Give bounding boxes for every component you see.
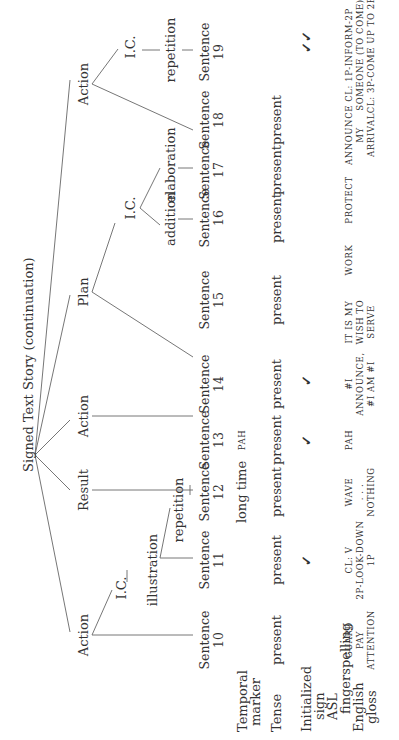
initialized-check-14: ✓	[300, 375, 314, 386]
tense-13: present	[270, 415, 284, 465]
node-ic-plan: I.C.	[124, 197, 138, 220]
node-repetition-right: repetition	[164, 18, 178, 83]
node-action-mid: Action	[77, 395, 91, 437]
sentence-12: Sentence12	[198, 463, 226, 522]
node-action-left: Action	[77, 614, 91, 656]
node-result: Result	[77, 469, 91, 511]
gloss-10: GUARDPAYATTENTION	[344, 610, 377, 670]
sentence-15: Sentence15	[198, 271, 226, 330]
node-action-right: Action	[77, 63, 91, 105]
tense-12: present	[270, 467, 284, 517]
tense-14: present	[270, 359, 284, 409]
sentence-11: Sentence11	[198, 531, 226, 590]
gloss-15: IT IS MYWISH TOSERVE	[344, 300, 377, 345]
node-plan: Plan	[77, 277, 91, 306]
node-elaboration: elaboration	[164, 127, 178, 202]
tense-16: present	[270, 193, 284, 243]
sentence-10: Sentence10	[198, 611, 226, 670]
temporal-13: PAH	[237, 430, 248, 450]
sentence-13: Sentence13	[198, 411, 226, 470]
gloss-13: PAH	[344, 430, 355, 450]
node-illustration: illustration	[146, 534, 160, 606]
gloss-17: PROTECT	[344, 176, 355, 223]
diagram-title: Signed Text Story (continuation)	[22, 257, 35, 472]
row-label-initialized-sign: Initialized sign	[300, 666, 326, 732]
initialized-check-19: ✓✓	[300, 31, 314, 53]
tense-15: present	[270, 275, 284, 325]
initialized-check-13: ✓	[300, 435, 314, 446]
gloss-19: CL: 1P-INFORM-2PSOMEONE (TO COME)CL: 3P-…	[344, 0, 377, 113]
row-label-english-gloss: English gloss	[352, 682, 378, 732]
node-repetition-left: repetition	[172, 478, 186, 543]
gloss-14: #IANNOUNCE,#I AM #I	[344, 352, 377, 415]
diagram-stage: Signed Text Story (continuation) Action …	[0, 0, 399, 740]
initialized-check-11: ✓	[300, 555, 314, 566]
tense-11: present	[270, 535, 284, 585]
sentence-14: Sentence14	[198, 355, 226, 414]
tense-17: present	[270, 145, 284, 195]
sentence-19: Sentence19	[198, 23, 226, 82]
gloss-12: WAVE. . .NOTHING	[344, 467, 377, 516]
sentence-18: Sentence18	[198, 91, 226, 150]
row-label-tense: Tense	[270, 694, 283, 732]
node-ic-right: I.C.	[124, 36, 138, 59]
row-label-temporal-marker: Temporal marker	[236, 670, 262, 732]
temporal-12: long time	[235, 461, 249, 523]
gloss-18: ANNOUNCEMYARRIVAL	[344, 105, 377, 165]
tense-18: present	[270, 95, 284, 145]
node-ic-left: I.C.	[115, 577, 129, 600]
gloss-16: WORK	[344, 245, 355, 276]
gloss-11: CL: V2P-LOOK-DOWN1P	[344, 521, 377, 600]
tense-10: present	[270, 615, 284, 665]
